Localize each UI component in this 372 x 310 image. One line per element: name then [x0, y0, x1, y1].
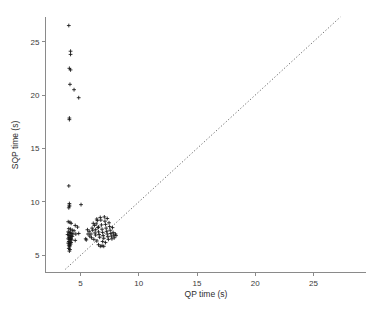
data-point-marker [98, 235, 102, 239]
data-point-marker [91, 228, 95, 232]
y-tick-label: 25 [31, 38, 40, 47]
x-tick-label: 5 [78, 279, 83, 288]
data-point-marker [94, 233, 98, 237]
data-point-marker [69, 53, 73, 57]
y-axis-title: SQP time (s) [10, 121, 20, 170]
y-tick-label: 15 [31, 144, 40, 153]
data-point-marker [104, 226, 108, 230]
data-point-marker [107, 221, 111, 225]
data-point-marker [68, 82, 72, 86]
data-point-marker [67, 24, 71, 28]
x-tick-label: 10 [134, 279, 143, 288]
data-point-marker [79, 203, 83, 207]
data-point-marker [108, 228, 112, 232]
y-tick-label: 5 [35, 251, 40, 260]
x-axis-ticks: 510152025 [78, 273, 318, 288]
data-point-marker [104, 222, 108, 226]
data-point-marker [90, 226, 94, 230]
y-axis-ticks: 510152025 [31, 38, 46, 261]
data-point-marker [103, 219, 107, 223]
data-point-marker [67, 184, 71, 188]
scatter-plot-figure: 510152025 510152025 QP time (s) SQP time… [0, 0, 372, 310]
data-point-marker [98, 216, 102, 220]
data-point-marker [97, 233, 101, 237]
x-axis-title: QP time (s) [185, 289, 228, 299]
data-point-marker [97, 230, 101, 234]
data-point-marker [93, 231, 97, 235]
data-point-marker [77, 96, 81, 100]
data-point-marker [100, 227, 104, 231]
data-point-marker [97, 225, 101, 229]
x-tick-label: 15 [193, 279, 202, 288]
x-tick-label: 20 [251, 279, 260, 288]
plot-canvas: 510152025 510152025 QP time (s) SQP time… [0, 0, 372, 310]
data-point-marker [94, 228, 98, 232]
data-point-marker [73, 239, 77, 243]
data-point-marker [107, 237, 111, 241]
data-point-marker [77, 232, 81, 236]
data-point-marker [96, 226, 100, 230]
data-point-marker [72, 88, 76, 92]
data-point-marker [100, 223, 104, 227]
data-point-marker [105, 229, 109, 233]
x-tick-label: 25 [309, 279, 318, 288]
axes-group [46, 17, 367, 273]
data-point-marker [99, 218, 103, 222]
y-tick-label: 10 [31, 198, 40, 207]
data-point-marker [101, 234, 105, 238]
data-point-group [66, 24, 118, 253]
data-point-marker [105, 232, 109, 236]
data-point-marker [101, 231, 105, 235]
y-tick-label: 20 [31, 91, 40, 100]
data-point-marker [106, 235, 110, 239]
